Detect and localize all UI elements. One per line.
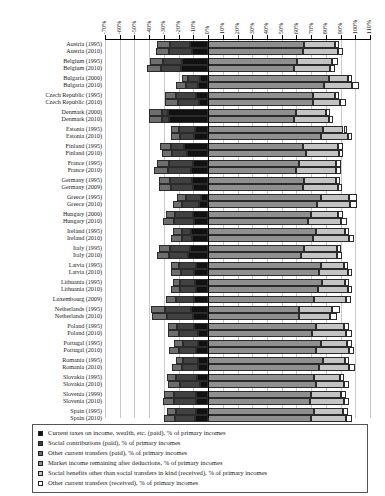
bar-row bbox=[105, 184, 370, 191]
bar-segment bbox=[157, 252, 169, 259]
bar-segment bbox=[296, 167, 336, 174]
bar-segment bbox=[332, 306, 339, 313]
bar-segment bbox=[208, 330, 312, 337]
bar-segment bbox=[208, 150, 306, 157]
bar-segment bbox=[208, 391, 311, 398]
bar-segment bbox=[149, 116, 162, 123]
legend-item: Other current transfers (received), % of… bbox=[38, 478, 362, 488]
bar-segment bbox=[314, 374, 340, 381]
bar-segment bbox=[176, 374, 197, 381]
bar-segment bbox=[323, 357, 345, 364]
bar-segment bbox=[176, 296, 194, 303]
bar-row bbox=[105, 218, 370, 225]
bar-segment bbox=[338, 184, 342, 191]
bar-segment bbox=[313, 99, 340, 106]
category-label: Poland (2010) bbox=[5, 330, 105, 337]
category-label: France (2010) bbox=[5, 167, 105, 174]
category-label: Bulgaria (2000) bbox=[5, 75, 105, 82]
category-label: Ireland (1995) bbox=[5, 228, 105, 235]
x-axis-tick-label: -60% bbox=[116, 21, 122, 34]
bar-segment bbox=[299, 313, 330, 320]
category-label: Hungary (2000) bbox=[5, 211, 105, 218]
bar-segment bbox=[208, 235, 313, 242]
bar-segment bbox=[193, 160, 208, 167]
bar-row bbox=[105, 211, 370, 218]
bar-row bbox=[105, 306, 370, 313]
bar-segment bbox=[177, 323, 194, 330]
bar-segment bbox=[196, 262, 209, 269]
category-label: Denmark (2000) bbox=[5, 109, 105, 116]
bar-segment bbox=[196, 408, 209, 415]
bar-segment bbox=[344, 323, 348, 330]
category-label: Lithuania (2010) bbox=[5, 286, 105, 293]
bar-segment bbox=[301, 252, 337, 259]
bar-segment bbox=[169, 252, 188, 259]
category-label: Bulgaria (2010) bbox=[5, 82, 105, 89]
bar-segment bbox=[338, 211, 343, 218]
bar-segment bbox=[338, 48, 342, 55]
bar-segment bbox=[349, 194, 357, 201]
bar-segment bbox=[182, 75, 189, 82]
bar-segment bbox=[316, 347, 348, 354]
bar-segment bbox=[201, 194, 208, 201]
bar-segment bbox=[167, 408, 177, 415]
bar-segment bbox=[173, 228, 183, 235]
bar-segment bbox=[208, 398, 310, 405]
bar-segment bbox=[196, 286, 209, 293]
bar-segment bbox=[208, 177, 304, 184]
bar-segment bbox=[208, 415, 311, 422]
legend-swatch bbox=[38, 481, 43, 486]
bar-segment bbox=[180, 133, 194, 140]
category-label: Germany (1995) bbox=[5, 177, 105, 184]
bar-segment bbox=[198, 357, 208, 364]
bar-row bbox=[105, 75, 370, 82]
category-label: Austria (2010) bbox=[5, 48, 105, 55]
bar-segment bbox=[318, 286, 347, 293]
bar-segment bbox=[162, 109, 168, 116]
bar-segment bbox=[190, 41, 208, 48]
bar-segment bbox=[319, 364, 349, 371]
bar-row bbox=[105, 296, 370, 303]
bar-segment bbox=[173, 201, 183, 208]
legend-label: Other current transfers (received), % of… bbox=[48, 478, 198, 488]
x-axis-tick-label: 10% bbox=[219, 23, 225, 34]
bar-segment bbox=[345, 279, 349, 286]
category-axis-labels: Austria (1995)Austria (2010)Belgium (199… bbox=[0, 40, 105, 418]
bar-segment bbox=[312, 330, 347, 337]
bar-segment bbox=[180, 286, 195, 293]
bar-segment bbox=[170, 177, 192, 184]
bar-segment bbox=[208, 357, 323, 364]
bar-segment bbox=[151, 306, 165, 313]
bar-segment bbox=[187, 150, 208, 157]
category-label: Portugal (2010) bbox=[5, 347, 105, 354]
bar-segment bbox=[297, 58, 332, 65]
bar-row bbox=[105, 313, 370, 320]
bar-segment bbox=[179, 330, 198, 337]
bar-segment bbox=[346, 330, 351, 337]
bar-segment bbox=[182, 58, 208, 65]
x-axis-tick-label: 20% bbox=[234, 23, 240, 34]
bar-row bbox=[105, 357, 370, 364]
bar-segment bbox=[164, 391, 174, 398]
bar-segment bbox=[195, 126, 208, 133]
bar-row bbox=[105, 99, 370, 106]
bar-segment bbox=[195, 415, 208, 422]
bar-segment bbox=[337, 245, 341, 252]
bar-segment bbox=[208, 109, 296, 116]
x-axis-tick-label: -20% bbox=[175, 21, 181, 34]
bar-segment bbox=[303, 48, 338, 55]
bar-segment bbox=[190, 245, 208, 252]
bar-segment bbox=[186, 82, 199, 89]
bar-row bbox=[105, 391, 370, 398]
category-label: Slovakia (1995) bbox=[5, 374, 105, 381]
bar-segment bbox=[316, 381, 345, 388]
category-label: Hungary (2010) bbox=[5, 218, 105, 225]
category-label: Italy (2010) bbox=[5, 252, 105, 259]
legend-item: Social contributions (paid), % of primar… bbox=[38, 438, 362, 448]
bar-row bbox=[105, 286, 370, 293]
bar-segment bbox=[208, 194, 321, 201]
legend-item: Social benefits other than social transf… bbox=[38, 468, 362, 478]
bar-row bbox=[105, 160, 370, 167]
bar-segment bbox=[162, 150, 172, 157]
bar-segment bbox=[157, 160, 170, 167]
